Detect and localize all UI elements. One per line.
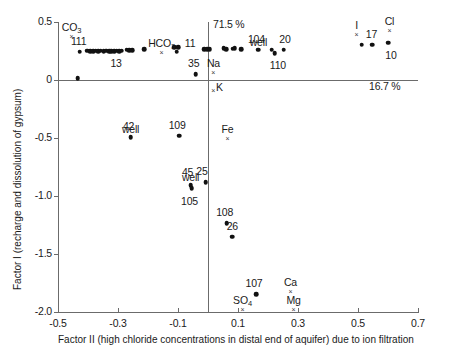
x-tick-label: 0.5	[333, 317, 383, 329]
x-tick	[418, 308, 419, 313]
y-tick	[54, 196, 59, 197]
variable-label-k: K	[216, 81, 223, 93]
x-axis-zero-line	[58, 80, 418, 81]
data-point	[208, 47, 213, 52]
y-tick	[54, 138, 59, 139]
y-tick-label: 0.5	[12, 15, 52, 27]
data-point	[359, 42, 364, 47]
y-tick	[54, 80, 59, 81]
x-axis-title: Factor II (high chloride concentrations …	[58, 334, 414, 345]
y-axis-title: Factor I (recharge and dissolution of gy…	[12, 89, 23, 290]
data-point	[386, 41, 391, 46]
x-tick-label: -0.1	[153, 317, 203, 329]
data-point-label: 17	[366, 28, 377, 40]
data-point	[254, 292, 259, 297]
x-tick	[238, 308, 239, 313]
data-point	[193, 72, 198, 77]
data-point-label: 35	[188, 57, 199, 69]
variable-label-ca: Ca	[284, 276, 297, 288]
data-point	[370, 43, 375, 48]
variable-marker-k: ×	[211, 86, 215, 93]
y-tick	[54, 254, 59, 255]
data-point	[239, 47, 244, 52]
variable-label-mg: Mg	[286, 294, 300, 306]
well-label-45: well	[182, 171, 199, 183]
variable-label-i: I	[355, 19, 358, 31]
variable-marker-so4: ×	[240, 305, 244, 312]
x-tick	[58, 308, 59, 313]
variable-marker-hco3: ×	[159, 48, 163, 55]
variable-marker-cl: ×	[387, 27, 391, 34]
x-tick	[178, 308, 179, 313]
well-label-104: well	[250, 36, 267, 48]
x-tick	[298, 308, 299, 313]
x-tick-label: 0.1	[213, 317, 263, 329]
variable-label-fe: Fe	[222, 123, 234, 135]
variable-marker-mg: ×	[291, 305, 295, 312]
data-point	[77, 49, 82, 54]
well-label-42: well	[122, 123, 139, 135]
data-point-label: 10	[385, 49, 396, 61]
data-point	[232, 46, 237, 51]
data-point-label: 26	[227, 220, 238, 232]
data-point-label: 107	[246, 277, 263, 289]
data-point	[189, 186, 194, 191]
data-point-label: 13	[110, 57, 121, 69]
data-point	[256, 48, 261, 53]
data-point	[142, 47, 147, 52]
data-point	[177, 133, 182, 138]
data-point	[130, 48, 135, 53]
data-point	[273, 51, 278, 56]
variable-label-so4: SO4	[233, 294, 252, 306]
data-point	[230, 234, 235, 239]
data-point-label: 109	[169, 119, 186, 131]
data-point-label: 110	[270, 59, 286, 71]
x-tick-label: -0.3	[93, 317, 143, 329]
x-tick	[358, 308, 359, 313]
variable-marker-co3: ×	[69, 32, 73, 39]
y-tick-label: -2.0	[12, 305, 52, 317]
variable-label-cl: Cl	[385, 15, 395, 27]
data-point-label: 11	[185, 37, 196, 49]
variable-label-co3: CO3	[62, 21, 81, 33]
variable-label-hco3: HCO3	[148, 37, 175, 49]
factor-i-variance: 71.5 %	[213, 18, 245, 30]
data-point-label: 20	[279, 33, 290, 45]
data-point	[128, 135, 133, 140]
data-point	[224, 47, 229, 52]
variable-marker-na: ×	[211, 69, 215, 76]
factor-analysis-biplot: 0.50-0.5-1.0-1.5-2.0-0.5-0.3-0.10.10.30.…	[0, 0, 449, 350]
y-axis-tick-spine	[58, 22, 59, 312]
x-tick	[118, 308, 119, 313]
data-point-label: 105	[181, 195, 198, 207]
factor-ii-variance: 16.7 %	[369, 80, 401, 92]
x-tick-label: -0.5	[33, 317, 83, 329]
y-tick	[54, 22, 59, 23]
variable-marker-fe: ×	[225, 135, 229, 142]
y-tick-label: 0	[12, 73, 52, 85]
data-point	[204, 180, 209, 185]
data-point	[282, 47, 287, 52]
data-point-label: 108	[216, 206, 233, 218]
variable-marker-i: ×	[354, 30, 358, 37]
x-tick-label: 0.7	[393, 317, 443, 329]
x-tick-label: 0.3	[273, 317, 323, 329]
variable-label-na: Na	[207, 57, 220, 69]
data-point	[175, 49, 180, 54]
data-point	[75, 76, 80, 81]
